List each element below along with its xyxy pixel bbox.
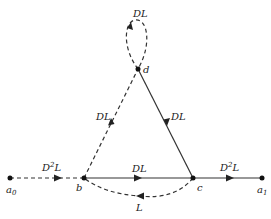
label-edge-b-d: DL	[95, 111, 111, 122]
node-c	[191, 176, 196, 181]
label-a1: a1	[257, 184, 267, 197]
node-d	[136, 67, 141, 72]
arrow-a0-b-icon	[54, 175, 62, 182]
node-a1	[260, 176, 265, 181]
node-a0	[8, 176, 13, 181]
label-edge-b-c: DL	[131, 163, 147, 174]
label-c: c	[197, 182, 203, 193]
edge-d-c	[138, 69, 193, 178]
arrow-c-a1-icon	[226, 175, 234, 182]
label-a0: a0	[6, 184, 17, 197]
label-edge-c-a1: D2L	[219, 161, 240, 173]
arrow-b-c-icon	[134, 175, 142, 182]
edge-c-b	[84, 178, 193, 197]
label-d: d	[143, 64, 149, 75]
label-edge-d-loop: DL	[132, 8, 148, 19]
label-edge-a0-b: D2L	[41, 161, 62, 173]
label-edge-c-b: L	[135, 202, 143, 213]
arrow-c-b-icon	[136, 193, 144, 200]
node-b	[82, 176, 87, 181]
label-b: b	[76, 182, 82, 193]
label-edge-d-c: DL	[170, 111, 186, 122]
signal-flow-graph: a0 b c a1 d D2L DL D2L DL DL L DL	[0, 0, 271, 219]
